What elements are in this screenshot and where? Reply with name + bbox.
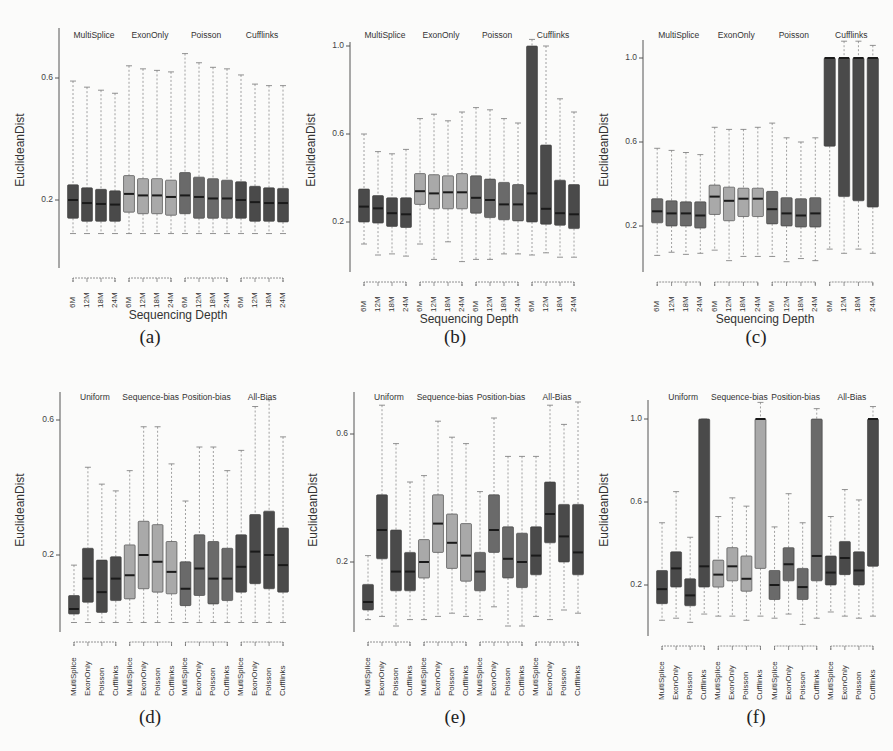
group-bracket — [74, 642, 116, 646]
x-tick-label: Cufflinks — [812, 669, 821, 700]
x-tick-label: ExonOnly — [545, 661, 554, 696]
x-tick-label: Poisson — [503, 668, 512, 696]
group-bracket — [130, 642, 172, 646]
x-tick-label: Cufflinks — [755, 669, 764, 700]
box — [69, 596, 80, 615]
box — [699, 419, 710, 587]
boxplot-svg — [590, 0, 893, 751]
x-tick-label: Poisson — [447, 668, 456, 696]
group-label: All-Bias — [248, 392, 277, 402]
box — [727, 548, 738, 581]
box — [377, 495, 388, 559]
group-label: All-Bias — [543, 392, 572, 402]
x-tick-label: Cufflinks — [461, 665, 470, 696]
x-tick-label: Poisson — [264, 668, 273, 696]
x-tick-label: ExonOnly — [377, 661, 386, 696]
x-tick-label: Poisson — [208, 668, 217, 696]
box — [545, 482, 556, 543]
group-label: Uniform — [668, 392, 698, 402]
x-tick-label: ExonOnly — [250, 661, 259, 696]
y-tick-label: 0.2 — [320, 556, 348, 566]
boxplot-svg — [0, 0, 300, 751]
box — [657, 570, 668, 603]
box — [517, 533, 528, 587]
box — [461, 524, 472, 582]
x-tick-label: MultiSplice — [363, 657, 372, 696]
x-tick-label: MultiSplice — [657, 661, 666, 700]
x-tick-label: Cufflinks — [699, 669, 708, 700]
box — [250, 515, 261, 584]
group-bracket — [831, 646, 873, 650]
box — [755, 419, 766, 568]
x-tick-label: ExonOnly — [840, 665, 849, 700]
x-tick-label: Cufflinks — [222, 665, 231, 696]
x-tick-label: Cufflinks — [167, 665, 176, 696]
y-tick-label: 0.2 — [26, 549, 54, 559]
x-tick-label: ExonOnly — [489, 661, 498, 696]
x-tick-label: MultiSplice — [770, 661, 779, 700]
x-tick-label: MultiSplice — [236, 657, 245, 696]
x-tick-label: Poisson — [391, 668, 400, 696]
group-bracket — [368, 642, 410, 646]
x-tick-label: Poisson — [153, 668, 162, 696]
box — [194, 535, 205, 596]
x-tick-label: ExonOnly — [727, 665, 736, 700]
box — [853, 552, 864, 585]
box — [208, 542, 219, 604]
group-bracket — [480, 642, 522, 646]
x-tick-label: Poisson — [97, 668, 106, 696]
y-tick-label: 0.6 — [26, 414, 54, 424]
x-tick-label: Poisson — [559, 668, 568, 696]
box — [419, 540, 430, 578]
y-axis-label: EuclideanDist — [13, 460, 27, 560]
box — [531, 527, 542, 575]
box — [741, 556, 752, 591]
box — [152, 525, 163, 593]
box — [685, 579, 696, 606]
x-tick-label: MultiSplice — [69, 657, 78, 696]
group-bracket — [424, 642, 466, 646]
panel-e: 0.20.6UniformMultiSpliceExonOnlyPoissonC… — [295, 0, 595, 751]
x-tick-label: Cufflinks — [278, 665, 287, 696]
x-tick-label: MultiSplice — [125, 657, 134, 696]
x-tick-label: ExonOnly — [194, 661, 203, 696]
x-tick-label: MultiSplice — [475, 657, 484, 696]
group-label: Sequence-bias — [122, 392, 179, 402]
box — [573, 504, 584, 574]
boxplot-svg — [295, 0, 595, 751]
x-tick-label: MultiSplice — [826, 661, 835, 700]
box — [713, 560, 724, 587]
x-tick-label: MultiSplice — [419, 657, 428, 696]
x-tick-label: MultiSplice — [713, 661, 722, 700]
x-tick-label: MultiSplice — [180, 657, 189, 696]
panel-d: 0.20.6UniformMultiSpliceExonOnlyPoissonC… — [0, 0, 300, 751]
x-tick-label: ExonOnly — [671, 665, 680, 700]
group-bracket — [775, 646, 817, 650]
x-tick-label: ExonOnly — [139, 661, 148, 696]
y-tick-label: 0.6 — [614, 496, 642, 506]
y-tick-label: 0.2 — [614, 579, 642, 589]
box — [363, 584, 374, 610]
x-tick-label: ExonOnly — [83, 661, 92, 696]
box — [96, 560, 107, 612]
group-label: Position-bias — [771, 392, 820, 402]
group-bracket — [536, 642, 578, 646]
x-tick-label: Cufflinks — [573, 665, 582, 696]
y-tick-label: 1.0 — [614, 413, 642, 423]
box — [503, 527, 514, 578]
box — [166, 542, 177, 594]
x-tick-label: Cufflinks — [868, 669, 877, 700]
x-tick-label: Cufflinks — [111, 665, 120, 696]
group-label: Sequence-bias — [711, 392, 768, 402]
y-tick-label: 0.6 — [320, 428, 348, 438]
box — [867, 419, 878, 566]
box — [671, 552, 682, 587]
y-axis-label: EuclideanDist — [306, 460, 320, 560]
x-tick-label: Poisson — [798, 672, 807, 700]
group-label: Sequence-bias — [417, 392, 474, 402]
box — [278, 528, 289, 592]
group-label: Uniform — [374, 392, 404, 402]
group-label: Position-bias — [477, 392, 526, 402]
group-label: Uniform — [80, 392, 110, 402]
panel-caption: (f) — [726, 706, 786, 728]
